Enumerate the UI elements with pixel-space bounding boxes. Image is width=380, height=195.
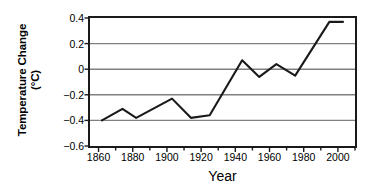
x-axis-tick-label: 1860: [87, 152, 110, 163]
x-axis-tick-label: 1960: [258, 152, 281, 163]
x-axis-tick-label: 1900: [155, 152, 178, 163]
x-axis-tick-label: 1920: [189, 152, 212, 163]
x-axis-tick-label: 1940: [224, 152, 247, 163]
x-axis-tick-label: 1880: [121, 152, 144, 163]
x-axis-tick-labels: 18601880190019201940196019802000: [0, 0, 380, 195]
chart-figure: Temperature Change (°C) 0.40.20−0.2−0.4−…: [0, 0, 380, 195]
x-axis-tick-label: 1980: [292, 152, 315, 163]
x-axis-tick-label: 2000: [326, 152, 349, 163]
x-axis-title: Year: [88, 168, 357, 184]
